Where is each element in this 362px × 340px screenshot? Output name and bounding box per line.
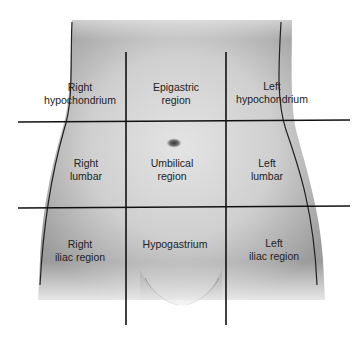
label-left-iliac: Left iliac region — [249, 237, 299, 263]
label-line: Right — [44, 81, 116, 94]
label-right-lumbar: Right lumbar — [70, 157, 102, 183]
label-line: Left — [251, 157, 283, 170]
label-hypogastrium: Hypogastrium — [143, 238, 208, 251]
label-line: Left — [236, 80, 308, 93]
label-line: iliac region — [249, 250, 299, 263]
label-left-lumbar: Left lumbar — [251, 157, 283, 183]
abdominal-regions-diagram: Right hypochondrium Epigastric region Le… — [0, 0, 362, 340]
label-line: Hypogastrium — [143, 238, 208, 251]
label-line: Umbilical — [151, 157, 194, 170]
label-line: hypochondrium — [236, 93, 308, 106]
label-line: region — [153, 94, 199, 107]
top-fade — [0, 0, 362, 40]
label-line: lumbar — [70, 170, 102, 183]
bottom-fade — [0, 262, 362, 312]
label-line: Left — [249, 237, 299, 250]
label-line: Right — [55, 238, 105, 251]
label-line: Right — [70, 157, 102, 170]
label-umbilical: Umbilical region — [151, 157, 194, 183]
label-line: lumbar — [251, 170, 283, 183]
label-line: region — [151, 170, 194, 183]
navel — [166, 138, 182, 148]
label-left-hypochondrium: Left hypochondrium — [236, 80, 308, 106]
label-right-iliac: Right iliac region — [55, 238, 105, 264]
label-line: iliac region — [55, 251, 105, 264]
label-right-hypochondrium: Right hypochondrium — [44, 81, 116, 107]
label-line: hypochondrium — [44, 94, 116, 107]
label-line: Epigastric — [153, 81, 199, 94]
label-epigastric: Epigastric region — [153, 81, 199, 107]
